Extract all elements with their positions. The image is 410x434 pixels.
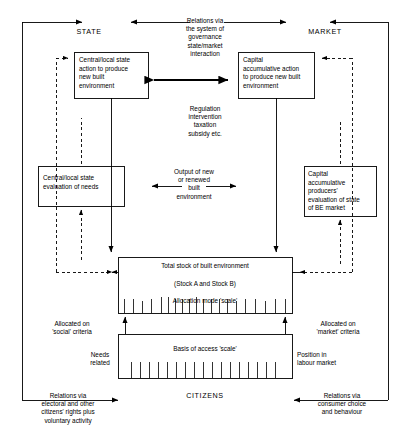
label-relations-citizens: Relations via electoral and other citize…: [20, 392, 116, 425]
label-governance-relations: Relations via the system of governance s…: [163, 17, 247, 58]
heading-state: STATE: [44, 28, 134, 36]
box-label-allocation-mode: Allocation mode 'scale': [118, 297, 292, 305]
box-label-stock-ab: (Stock A and Stock B): [118, 280, 292, 288]
box-label-total-stock: Total stock of built environment: [118, 262, 292, 270]
heading-market: MARKET: [280, 28, 370, 36]
label-needs-related: Needs related: [79, 351, 121, 367]
box-label-state-eval: Central/local state evaluation of needs: [43, 174, 125, 191]
label-relations-consumer: Relations via consumer choice and behavi…: [294, 392, 390, 417]
label-allocated-social: Allocated on 'social' criteria: [34, 320, 110, 336]
label-output-built-environment: Output of new or renewed built environme…: [163, 168, 225, 201]
diagram-canvas: STATE MARKET CITIZENS Central/local stat…: [0, 0, 410, 434]
box-label-basis-access: Basis of access 'scale': [118, 345, 292, 353]
diagram-lines: [0, 0, 410, 434]
box-label-market-eval: Capital accumulative producers' evaluati…: [308, 170, 378, 213]
label-position-labour-market: Position in labour market: [297, 351, 369, 367]
label-regulation: Regulation intervention taxation subsidy…: [163, 105, 247, 138]
box-label-state-action: Central/local state action to produce ne…: [79, 56, 149, 90]
box-label-market-action: Capital accumulative action to produce n…: [243, 56, 317, 90]
label-allocated-market: Allocated on 'market' criteria: [300, 320, 376, 336]
heading-citizens: CITIZENS: [160, 392, 250, 400]
